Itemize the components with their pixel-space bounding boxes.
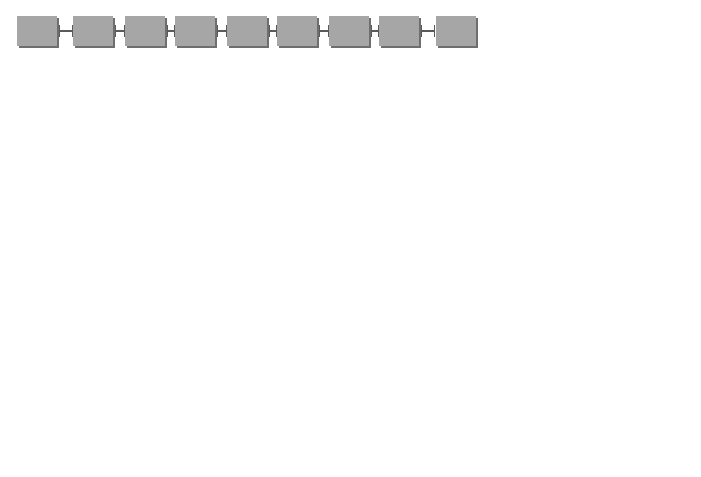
amino-acid-a8 — [379, 16, 419, 46]
amino-acid-a6 — [277, 16, 317, 46]
amino-acid-a5 — [227, 16, 267, 46]
peptide-bond — [421, 30, 435, 32]
amino-acid-a3 — [125, 16, 165, 46]
peptide-bond — [269, 30, 277, 32]
peptide-bond — [371, 30, 379, 32]
amino-acid-a7 — [329, 16, 369, 46]
peptide-bond — [167, 30, 175, 32]
amino-acid-a1 — [17, 16, 57, 46]
amino-acid-a4 — [175, 16, 215, 46]
peptide-bond — [319, 30, 329, 32]
amino-acid-a2 — [73, 16, 113, 46]
peptide-bond — [115, 30, 125, 32]
peptide-bond — [59, 30, 73, 32]
peptide-bond — [217, 30, 227, 32]
amino-acid-a9 — [436, 16, 476, 46]
